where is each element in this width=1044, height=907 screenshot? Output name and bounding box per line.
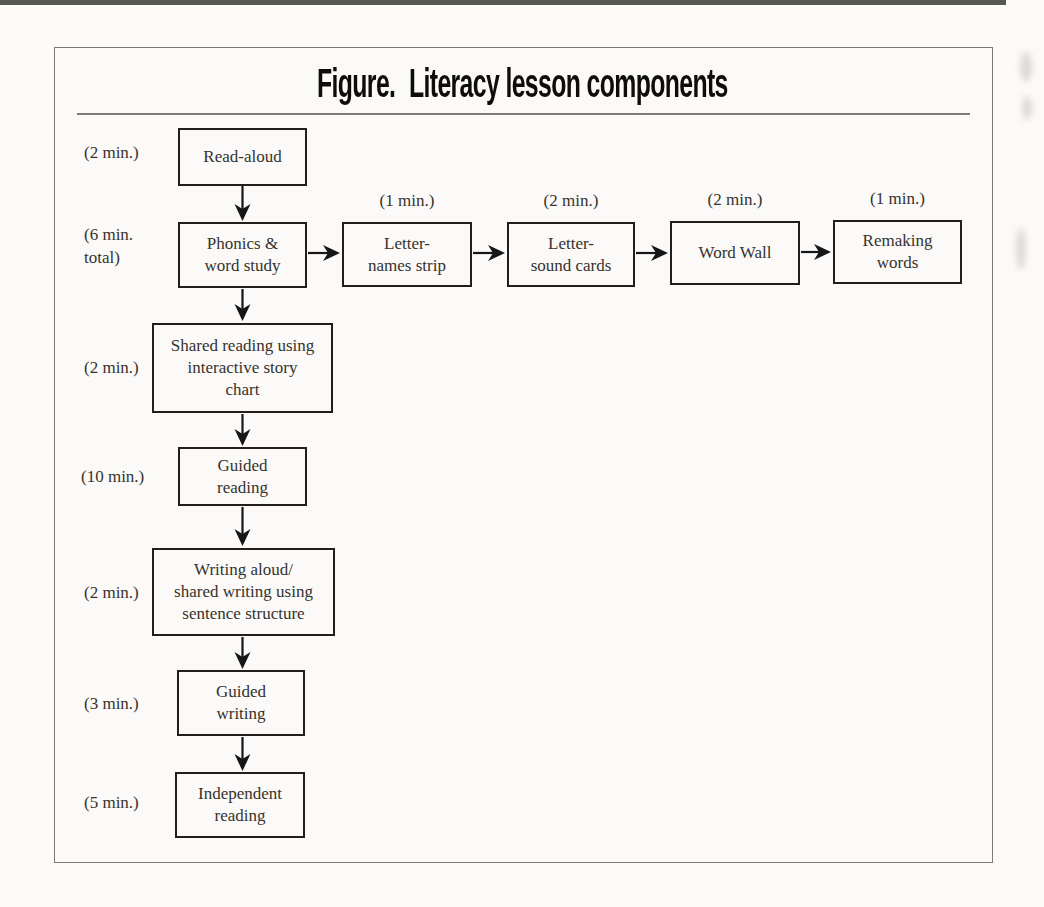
node-guided-writing: Guided writing bbox=[177, 670, 305, 736]
scan-artifact bbox=[1016, 228, 1026, 270]
node-remaking-words-label: Remaking words bbox=[859, 230, 937, 274]
node-writing-aloud: Writing aloud/ shared writing using sent… bbox=[152, 548, 335, 636]
time-label-read-aloud: (2 min.) bbox=[84, 142, 139, 165]
node-word-wall-label: Word Wall bbox=[695, 242, 776, 264]
node-shared-reading-label: Shared reading using interactive story c… bbox=[167, 335, 319, 400]
node-letter-sound-cards-label: Letter- sound cards bbox=[527, 233, 616, 277]
node-phonics-word-study: Phonics & word study bbox=[178, 222, 307, 288]
node-shared-reading: Shared reading using interactive story c… bbox=[152, 323, 333, 413]
node-independent-reading-label: Independent reading bbox=[194, 783, 286, 827]
node-phonics-word-study-label: Phonics & word study bbox=[200, 233, 284, 277]
time-label-word-wall: (2 min.) bbox=[670, 189, 800, 212]
node-letter-names-strip-label: Letter- names strip bbox=[364, 233, 450, 277]
scan-artifact bbox=[1022, 96, 1032, 120]
node-read-aloud: Read-aloud bbox=[178, 128, 307, 186]
time-label-guided-reading: (10 min.) bbox=[81, 466, 144, 489]
title-divider-rule bbox=[77, 113, 970, 115]
node-guided-reading: Guided reading bbox=[178, 447, 307, 506]
node-independent-reading: Independent reading bbox=[175, 772, 305, 838]
figure-title: Figure.Literacy lesson components bbox=[199, 61, 846, 106]
node-writing-aloud-label: Writing aloud/ shared writing using sent… bbox=[170, 559, 317, 624]
node-letter-names-strip: Letter- names strip bbox=[342, 222, 472, 287]
node-guided-writing-label: Guided writing bbox=[212, 681, 270, 725]
scan-artifact bbox=[1020, 52, 1032, 82]
node-letter-sound-cards: Letter- sound cards bbox=[507, 222, 635, 287]
time-label-letter-sound: (2 min.) bbox=[507, 190, 635, 213]
time-label-writing-aloud: (2 min.) bbox=[84, 582, 139, 605]
figure-title-prefix: Figure. bbox=[317, 61, 395, 105]
scanned-figure-page: Figure.Literacy lesson components (2 min… bbox=[0, 0, 1044, 907]
time-label-independent-reading: (5 min.) bbox=[84, 792, 139, 815]
time-label-phonics: (6 min. total) bbox=[84, 224, 133, 270]
figure-title-text: Literacy lesson components bbox=[409, 61, 728, 105]
time-label-shared-reading: (2 min.) bbox=[84, 357, 139, 380]
time-label-guided-writing: (3 min.) bbox=[84, 693, 139, 716]
scan-edge-artifact bbox=[0, 0, 1006, 5]
node-word-wall: Word Wall bbox=[670, 221, 800, 285]
node-guided-reading-label: Guided reading bbox=[213, 455, 272, 499]
time-label-letter-names: (1 min.) bbox=[342, 190, 472, 213]
time-label-remaking-words: (1 min.) bbox=[833, 188, 962, 211]
node-remaking-words: Remaking words bbox=[833, 220, 962, 284]
node-read-aloud-label: Read-aloud bbox=[199, 146, 285, 168]
